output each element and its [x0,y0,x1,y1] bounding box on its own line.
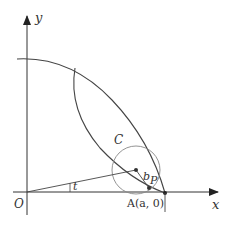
point-a-label: A(a, 0) [126,197,164,210]
radius-line-ot [27,170,136,192]
radius-label-b: b [143,170,150,183]
origin-label: O [14,197,24,211]
angle-label-t: t [73,180,78,193]
y-axis-label: y [34,10,43,25]
diagram-canvas: y x O t C b P A(a, 0) [0,0,236,228]
point-p-label: P [149,174,158,187]
x-axis-label: x [212,197,220,212]
circle-center-point [134,168,138,172]
circle-label-c: C [114,133,123,147]
